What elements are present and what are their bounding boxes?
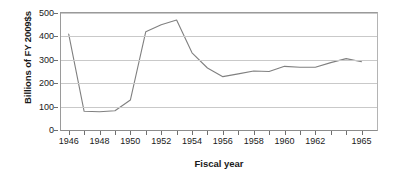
x-tick-mark-1963 [331,131,332,135]
x-tick-mark-1952 [161,131,162,135]
gridline-y-400 [61,36,377,37]
x-tick-mark-1949 [115,131,116,135]
y-tick-mark-300 [54,60,58,61]
x-tick-mark-1965 [362,131,363,135]
gridline-y-500 [61,13,377,14]
gridline-y-300 [61,60,377,61]
x-tick-mark-1962 [315,131,316,135]
x-tick-mark-1947 [84,131,85,135]
x-axis-ticks: 1946194819501952195419561958196019621965 [60,131,378,161]
y-axis-ticks: 0100200300400500 [26,12,54,131]
data-line-defense-outlays [69,20,362,112]
plot-area [60,12,378,131]
x-tick-mark-1948 [100,131,101,135]
y-tick-label-500: 500 [28,8,54,18]
y-tick-mark-400 [54,36,58,37]
x-tick-mark-1964 [346,131,347,135]
x-tick-mark-1959 [269,131,270,135]
x-tick-mark-1950 [130,131,131,135]
gridline-y-200 [61,83,377,84]
x-tick-mark-1946 [69,131,70,135]
x-tick-mark-1951 [146,131,147,135]
data-line-layer [61,13,377,130]
x-axis-title: Fiscal year [60,158,378,169]
x-tick-mark-1961 [300,131,301,135]
y-tick-label-400: 400 [28,31,54,41]
y-tick-label-0: 0 [28,125,54,135]
y-tick-mark-500 [54,13,58,14]
x-tick-mark-1955 [207,131,208,135]
x-tick-mark-1953 [177,131,178,135]
y-tick-mark-0 [54,130,58,131]
chart-figure: Billions of FY 2009$s 0100200300400500 1… [0,0,406,185]
gridline-y-100 [61,107,377,108]
x-tick-label-1965: 1965 [344,136,380,146]
x-tick-label-1962: 1962 [297,136,333,146]
y-tick-label-100: 100 [28,102,54,112]
y-tick-label-200: 200 [28,78,54,88]
x-tick-mark-1960 [285,131,286,135]
y-tick-mark-200 [54,83,58,84]
x-tick-mark-1956 [223,131,224,135]
y-tick-mark-100 [54,107,58,108]
x-tick-mark-1954 [192,131,193,135]
x-tick-mark-1958 [254,131,255,135]
y-tick-label-300: 300 [28,55,54,65]
x-tick-mark-1957 [238,131,239,135]
